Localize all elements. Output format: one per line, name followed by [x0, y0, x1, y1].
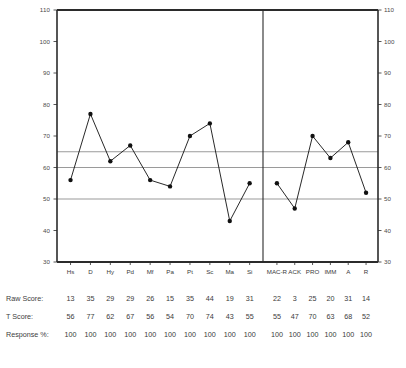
scale-label-Ma: Ma — [225, 268, 234, 275]
y-axis-right-tick-label: 30 — [384, 258, 402, 265]
table-cell: 70 — [186, 312, 194, 321]
y-axis-left-tick-label: 110 — [32, 6, 50, 13]
table-cell: 100 — [342, 330, 354, 339]
table-cell: 55 — [273, 312, 281, 321]
table-row-label: T Score: — [6, 312, 33, 321]
y-axis-right-tick-label: 50 — [384, 195, 402, 202]
table-cell: 35 — [186, 294, 194, 303]
y-axis-right-tick-label: 110 — [384, 6, 402, 13]
table-cell: 100 — [164, 330, 176, 339]
table-cell: 100 — [104, 330, 116, 339]
table-cell: 100 — [224, 330, 236, 339]
table-row-label: Response %: — [6, 330, 49, 339]
table-cell: 26 — [146, 294, 154, 303]
table-cell: 25 — [309, 294, 317, 303]
table-cell: 67 — [126, 312, 134, 321]
table-cell: 100 — [84, 330, 96, 339]
y-axis-left-tick-label: 90 — [32, 69, 50, 76]
data-point-R[interactable] — [364, 191, 368, 195]
table-cell: 22 — [273, 294, 281, 303]
y-axis-right-tick-label: 70 — [384, 132, 402, 139]
scale-label-IMM: IMM — [324, 268, 336, 275]
data-point-MAC-R[interactable] — [275, 181, 279, 185]
scale-label-MAC-R: MAC-R — [267, 268, 287, 275]
scale-label-Hy: Hy — [107, 268, 115, 275]
score-line-supplementary — [277, 136, 366, 208]
table-cell: 100 — [324, 330, 336, 339]
table-cell: 47 — [291, 312, 299, 321]
scale-label-PRO: PRO — [306, 268, 319, 275]
table-row-label: Raw Score: — [6, 294, 43, 303]
scale-label-Hs: Hs — [67, 268, 75, 275]
data-point-Pd[interactable] — [128, 143, 132, 147]
table-cell: 74 — [206, 312, 214, 321]
table-cell: 100 — [271, 330, 283, 339]
table-cell: 100 — [360, 330, 372, 339]
data-point-IMM[interactable] — [328, 156, 332, 160]
scale-label-Mf: Mf — [147, 268, 154, 275]
data-point-PRO[interactable] — [310, 134, 314, 138]
table-cell: 54 — [166, 312, 174, 321]
table-cell: 100 — [65, 330, 77, 339]
table-cell: 70 — [309, 312, 317, 321]
y-axis-right-tick-label: 100 — [384, 38, 402, 45]
data-point-Hy[interactable] — [108, 159, 112, 163]
data-point-Hs[interactable] — [68, 178, 72, 182]
scale-label-R: R — [364, 268, 368, 275]
table-cell: 15 — [166, 294, 174, 303]
table-cell: 43 — [226, 312, 234, 321]
y-axis-right-tick-label: 90 — [384, 69, 402, 76]
y-axis-right-tick-label: 60 — [384, 164, 402, 171]
y-axis-right-tick-label: 80 — [384, 101, 402, 108]
data-point-D[interactable] — [88, 112, 92, 116]
y-axis-left-tick-label: 30 — [32, 258, 50, 265]
y-axis-left-tick-label: 70 — [32, 132, 50, 139]
table-cell: 3 — [293, 294, 297, 303]
scale-label-D: D — [88, 268, 92, 275]
data-point-Ma[interactable] — [228, 219, 232, 223]
table-cell: 100 — [244, 330, 256, 339]
table-cell: 100 — [184, 330, 196, 339]
data-point-Pa[interactable] — [168, 184, 172, 188]
scale-label-Sc: Sc — [206, 268, 213, 275]
mmpi-profile-chart: 11010090807060504030 1101009080706050403… — [0, 0, 406, 368]
y-axis-right-tick-label: 40 — [384, 227, 402, 234]
table-cell: 63 — [326, 312, 334, 321]
table-cell: 29 — [106, 294, 114, 303]
data-point-A[interactable] — [346, 140, 350, 144]
data-point-Si[interactable] — [247, 181, 251, 185]
table-cell: 14 — [362, 294, 370, 303]
y-axis-left-tick-label: 100 — [32, 38, 50, 45]
data-point-Pt[interactable] — [188, 134, 192, 138]
scale-label-A: A — [346, 268, 350, 275]
table-cell: 13 — [67, 294, 75, 303]
table-cell: 31 — [344, 294, 352, 303]
table-cell: 31 — [246, 294, 254, 303]
table-cell: 62 — [106, 312, 114, 321]
scale-label-Pd: Pd — [126, 268, 134, 275]
data-point-Sc[interactable] — [208, 121, 212, 125]
table-cell: 29 — [126, 294, 134, 303]
y-axis-left-tick-label: 50 — [32, 195, 50, 202]
table-cell: 19 — [226, 294, 234, 303]
scale-label-Pa: Pa — [166, 268, 174, 275]
table-cell: 100 — [307, 330, 319, 339]
table-cell: 68 — [344, 312, 352, 321]
table-cell: 44 — [206, 294, 214, 303]
y-axis-left-tick-label: 80 — [32, 101, 50, 108]
table-cell: 100 — [289, 330, 301, 339]
scale-label-Pt: Pt — [187, 268, 193, 275]
table-cell: 55 — [246, 312, 254, 321]
tick-marks-group — [54, 10, 382, 265]
table-cell: 20 — [326, 294, 334, 303]
data-point-ACK[interactable] — [293, 206, 297, 210]
y-axis-left-tick-label: 60 — [32, 164, 50, 171]
table-cell: 100 — [124, 330, 136, 339]
table-cell: 56 — [146, 312, 154, 321]
table-cell: 35 — [86, 294, 94, 303]
table-cell: 100 — [144, 330, 156, 339]
scale-label-ACK: ACK — [288, 268, 301, 275]
table-cell: 100 — [204, 330, 216, 339]
table-cell: 52 — [362, 312, 370, 321]
data-point-Mf[interactable] — [148, 178, 152, 182]
